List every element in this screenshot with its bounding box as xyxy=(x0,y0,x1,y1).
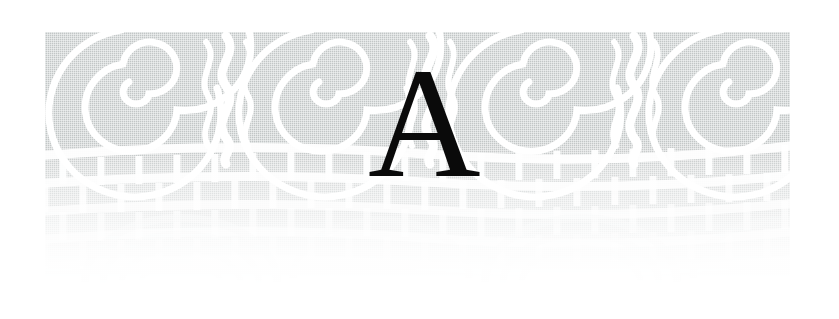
drop-cap-letter: A xyxy=(368,54,476,194)
page-canvas: A xyxy=(0,0,839,319)
